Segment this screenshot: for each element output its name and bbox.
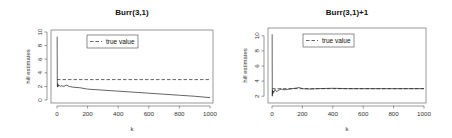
y-axis-label: hill estimates — [25, 49, 31, 84]
legend: true value — [303, 34, 354, 47]
x-tick-label: 1000 — [417, 110, 431, 117]
figure: Burr(3,1)02004006008001000k0246810hill e… — [0, 0, 452, 138]
chart-title: Burr(3,1) — [115, 8, 149, 17]
y-tick-label: 2 — [253, 94, 260, 98]
y-tick-label: 10 — [253, 32, 260, 39]
x-axis: 02004006008001000k — [270, 106, 431, 132]
chart-panel-2: Burr(3,1)+102004006008001000k246810hill … — [242, 8, 431, 132]
y-tick-label: 8 — [253, 49, 260, 53]
x-tick-label: 200 — [297, 110, 308, 117]
y-tick-label: 10 — [36, 28, 43, 35]
x-tick-label: 600 — [144, 110, 155, 117]
chart-panel-1: Burr(3,1)02004006008001000k0246810hill e… — [25, 8, 217, 132]
y-tick-label: 8 — [36, 43, 43, 47]
legend: true value — [87, 35, 138, 48]
y-tick-label: 6 — [253, 64, 260, 68]
chart-title: Burr(3,1)+1 — [326, 8, 369, 17]
y-tick-label: 6 — [36, 57, 43, 61]
y-tick-label: 2 — [36, 84, 43, 88]
x-axis: 02004006008001000k — [55, 106, 217, 132]
y-axis-label: hill estimates — [242, 48, 248, 83]
x-tick-label: 400 — [113, 110, 124, 117]
y-tick-label: 4 — [36, 71, 43, 75]
y-tick-label: 4 — [253, 79, 260, 83]
x-tick-label: 0 — [55, 110, 59, 117]
y-tick-label: 0 — [36, 98, 43, 102]
x-axis-label: k — [346, 126, 350, 132]
y-axis: 246810hill estimates — [242, 32, 264, 98]
y-axis: 0246810hill estimates — [25, 28, 47, 102]
x-tick-label: 600 — [358, 110, 369, 117]
x-tick-label: 800 — [388, 110, 399, 117]
x-tick-label: 0 — [270, 110, 274, 117]
chart-canvas: Burr(3,1)02004006008001000k0246810hill e… — [0, 0, 452, 138]
x-tick-label: 200 — [82, 110, 93, 117]
x-tick-label: 800 — [174, 110, 185, 117]
legend-label: true value — [322, 37, 351, 44]
x-tick-label: 1000 — [203, 110, 217, 117]
x-tick-label: 400 — [328, 110, 339, 117]
legend-label: true value — [106, 38, 135, 45]
x-axis-label: k — [131, 126, 135, 132]
